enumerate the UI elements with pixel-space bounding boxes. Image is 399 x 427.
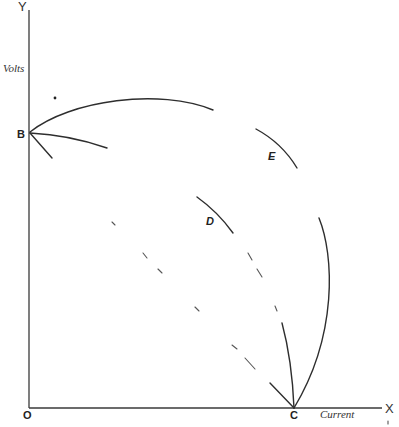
x-axis-letter: X — [385, 401, 394, 416]
short-line-from-b — [30, 133, 52, 158]
y-axis-letter: Y — [18, 0, 27, 14]
inner-curve-to-c — [282, 323, 294, 408]
outer-arc-to-c — [294, 218, 329, 408]
characteristic-curves-diagram: Y X Volts Current O B C E D — [0, 0, 399, 427]
construction-dashes — [112, 222, 277, 369]
curve-d — [197, 197, 233, 233]
upper-arc-from-b — [30, 99, 213, 132]
stray-dot — [54, 97, 57, 100]
point-c-label: C — [290, 409, 298, 421]
origin-label: O — [23, 409, 32, 421]
curve-d-label: D — [206, 215, 214, 227]
curve-e-label: E — [268, 150, 276, 162]
point-b-label: B — [17, 128, 25, 140]
y-axis-name: Volts — [3, 62, 24, 74]
curve-e — [256, 129, 297, 168]
x-axis-name: Current — [320, 408, 355, 420]
short-line-to-c — [270, 383, 294, 408]
